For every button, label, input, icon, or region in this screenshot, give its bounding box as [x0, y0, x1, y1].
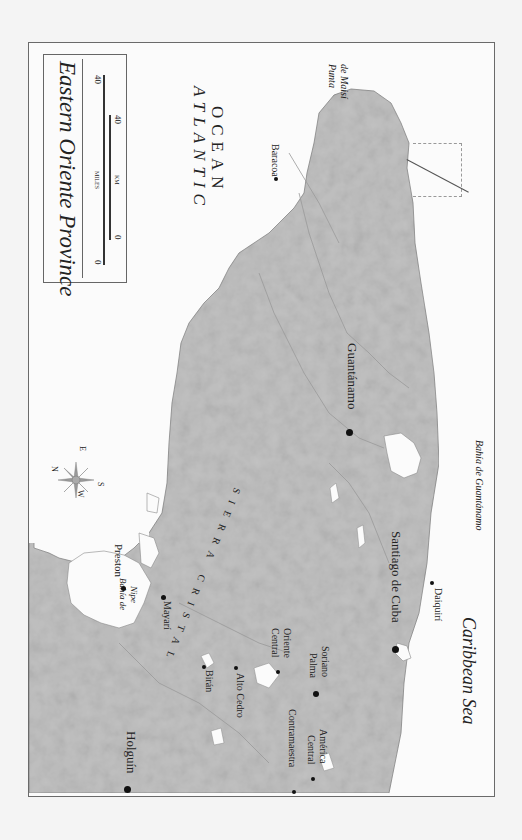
- punta-maisi-label-2: de Maisí: [339, 64, 349, 99]
- bahia-nipe-label-1: Bahía de: [118, 578, 127, 610]
- city-label-alto-cedro: Alto Cedro: [235, 673, 245, 718]
- scale-bar-km: [109, 115, 111, 240]
- city-dot-mayari: [161, 595, 166, 600]
- city-dot-contramaestra: [292, 790, 296, 794]
- scale-miles-label: MILES: [94, 171, 100, 189]
- city-dot-baracoa: [274, 177, 278, 181]
- guantanamo-inset-box: [413, 143, 462, 197]
- scale-km-end: 40: [113, 115, 122, 124]
- city-label-baracoa: Baracoa: [270, 144, 280, 177]
- city-label-biran: Birán: [204, 670, 214, 692]
- city-label-daiquiri: Daiquirí: [433, 588, 443, 621]
- legend-box: Eastern Oriente Province 40 0 MILES 40 0…: [43, 54, 127, 283]
- compass-w: W: [76, 490, 84, 498]
- city-dot-preston: [121, 586, 126, 591]
- bahia-guantanamo-label: Bahía de Guantánamo: [474, 440, 484, 531]
- city-label-mayari: Mayarí: [162, 601, 172, 630]
- bahia-nipe-label-2: Nipe: [129, 586, 138, 603]
- scale-km-start: 0: [113, 235, 122, 240]
- city-label-central-america-1: Central: [306, 735, 316, 764]
- city-label-contramaestra: Contramaestra: [287, 709, 297, 767]
- city-dot-biran: [202, 665, 206, 669]
- compass-n: N: [50, 466, 58, 472]
- map-title: Eastern Oriente Province: [56, 61, 79, 296]
- city-dot-santiago: [392, 646, 399, 653]
- city-dot-central-oriente: [276, 670, 280, 674]
- city-dot-daiquiri: [430, 581, 434, 585]
- city-label-palma-soriano-1: Palma: [308, 653, 318, 678]
- scale-miles-end: 40: [93, 75, 102, 84]
- punta-maisi-label-1: Punta: [327, 64, 337, 88]
- atlantic-ocean-label-1: ATLANTIC: [191, 86, 208, 211]
- city-dot-holguin: [124, 786, 131, 793]
- scale-miles-start: 0: [93, 260, 102, 265]
- compass-e: E: [78, 446, 86, 451]
- scale-km-label: KM: [114, 175, 120, 185]
- city-label-holguin: Holguín: [125, 731, 138, 774]
- city-dot-alto-cedro: [234, 666, 238, 670]
- scale-bar-miles: [103, 75, 105, 265]
- city-label-santiago: Santiago de Cuba: [390, 531, 403, 623]
- city-dot-guantanamo: [346, 429, 353, 436]
- city-label-guantanamo: Guantánamo: [346, 343, 359, 409]
- city-label-preston: Preston: [113, 544, 124, 577]
- caribbean-sea-label: Caribbean Sea: [460, 617, 478, 725]
- atlantic-ocean-label-2: OCEAN: [209, 106, 226, 195]
- city-dot-palma-soriano: [313, 691, 319, 697]
- city-label-central-oriente-2: Oriente: [282, 628, 292, 658]
- city-dot-central-america: [311, 777, 315, 781]
- title-rule: [82, 59, 83, 278]
- city-label-palma-soriano-2: Soriano: [320, 646, 330, 677]
- city-label-central-oriente-1: Central: [270, 628, 280, 657]
- city-label-central-america-2: América: [318, 729, 328, 763]
- compass-s: S: [96, 482, 104, 486]
